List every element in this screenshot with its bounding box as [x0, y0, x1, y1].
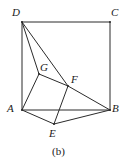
vertex-label-e: E — [49, 128, 56, 139]
edge-e-f — [54, 86, 68, 124]
vertex-label-g: G — [40, 62, 48, 73]
vertex-label-d: D — [12, 7, 20, 18]
edge-a-g — [22, 74, 39, 110]
vertex-label-b: B — [112, 103, 119, 114]
figure-caption: (b) — [52, 146, 65, 157]
geometry-figure: DCABGFE (b) — [0, 0, 124, 164]
vertex-point-b — [109, 109, 111, 111]
vertex-point-g — [38, 73, 40, 75]
vertex-point-e — [53, 123, 55, 125]
vertex-label-f: F — [71, 74, 78, 85]
edge-e-b — [54, 110, 110, 124]
vertex-label-a: A — [7, 103, 14, 114]
edge-d-g — [22, 22, 39, 74]
vertex-point-a — [21, 109, 23, 111]
vertex-point-f — [67, 85, 69, 87]
figure-canvas — [0, 0, 124, 164]
edge-f-b — [68, 86, 110, 110]
vertex-point-d — [21, 21, 23, 23]
edge-a-e — [22, 110, 54, 124]
vertex-layer — [21, 21, 111, 125]
vertex-point-c — [109, 21, 111, 23]
edge-layer — [22, 22, 110, 124]
vertex-label-c: C — [111, 7, 118, 18]
